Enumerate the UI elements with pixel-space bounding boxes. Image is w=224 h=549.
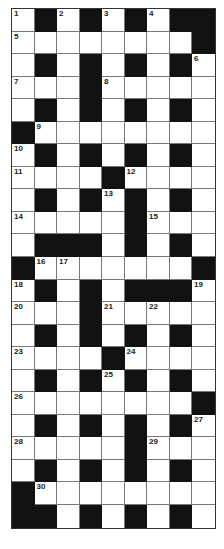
grid-cell[interactable] — [102, 54, 125, 77]
grid-cell[interactable] — [147, 392, 170, 415]
grid-cell[interactable]: 22 — [147, 302, 170, 325]
grid-cell[interactable] — [57, 392, 80, 415]
grid-cell[interactable] — [147, 77, 170, 100]
grid-cell[interactable]: 10 — [12, 144, 35, 167]
grid-cell[interactable] — [147, 32, 170, 55]
grid-cell[interactable]: 17 — [57, 257, 80, 280]
grid-cell[interactable] — [12, 370, 35, 393]
grid-cell[interactable]: 2 — [57, 9, 80, 32]
grid-cell[interactable] — [170, 167, 193, 190]
grid-cell[interactable] — [57, 505, 80, 528]
grid-cell[interactable] — [147, 144, 170, 167]
grid-cell[interactable] — [57, 302, 80, 325]
grid-cell[interactable] — [102, 482, 125, 505]
grid-cell[interactable]: 27 — [192, 415, 215, 438]
grid-cell[interactable] — [147, 167, 170, 190]
grid-cell[interactable] — [102, 234, 125, 257]
grid-cell[interactable] — [57, 347, 80, 370]
grid-cell[interactable]: 18 — [12, 280, 35, 303]
grid-cell[interactable] — [125, 122, 148, 145]
grid-cell[interactable] — [125, 302, 148, 325]
grid-cell[interactable]: 12 — [125, 167, 148, 190]
grid-cell[interactable] — [125, 32, 148, 55]
grid-cell[interactable] — [57, 144, 80, 167]
grid-cell[interactable] — [80, 212, 103, 235]
grid-cell[interactable] — [12, 234, 35, 257]
grid-cell[interactable]: 1 — [12, 9, 35, 32]
grid-cell[interactable] — [125, 482, 148, 505]
grid-cell[interactable] — [12, 415, 35, 438]
grid-cell[interactable] — [57, 167, 80, 190]
grid-cell[interactable] — [170, 302, 193, 325]
grid-cell[interactable] — [102, 212, 125, 235]
grid-cell[interactable]: 19 — [192, 280, 215, 303]
grid-cell[interactable]: 21 — [102, 302, 125, 325]
grid-cell[interactable] — [57, 482, 80, 505]
grid-cell[interactable] — [147, 482, 170, 505]
grid-cell[interactable]: 24 — [125, 347, 148, 370]
grid-cell[interactable] — [170, 482, 193, 505]
grid-cell[interactable] — [57, 280, 80, 303]
grid-cell[interactable]: 25 — [102, 370, 125, 393]
grid-cell[interactable] — [147, 234, 170, 257]
grid-cell[interactable] — [170, 437, 193, 460]
grid-cell[interactable] — [125, 257, 148, 280]
grid-cell[interactable] — [102, 99, 125, 122]
grid-cell[interactable] — [80, 122, 103, 145]
grid-cell[interactable] — [147, 347, 170, 370]
grid-cell[interactable]: 3 — [102, 9, 125, 32]
grid-cell[interactable] — [192, 212, 215, 235]
grid-cell[interactable] — [35, 302, 58, 325]
grid-cell[interactable] — [192, 302, 215, 325]
grid-cell[interactable] — [57, 212, 80, 235]
grid-cell[interactable] — [192, 167, 215, 190]
grid-cell[interactable] — [35, 167, 58, 190]
grid-cell[interactable] — [170, 257, 193, 280]
grid-cell[interactable] — [147, 325, 170, 348]
grid-cell[interactable] — [147, 257, 170, 280]
grid-cell[interactable] — [192, 234, 215, 257]
grid-cell[interactable] — [170, 122, 193, 145]
grid-cell[interactable] — [102, 415, 125, 438]
grid-cell[interactable] — [170, 32, 193, 55]
grid-cell[interactable] — [192, 505, 215, 528]
grid-cell[interactable] — [57, 370, 80, 393]
grid-cell[interactable] — [12, 99, 35, 122]
grid-cell[interactable] — [147, 122, 170, 145]
grid-cell[interactable] — [57, 325, 80, 348]
grid-cell[interactable] — [147, 370, 170, 393]
grid-cell[interactable] — [12, 189, 35, 212]
grid-cell[interactable] — [102, 437, 125, 460]
grid-cell[interactable] — [12, 54, 35, 77]
grid-cell[interactable] — [35, 212, 58, 235]
grid-cell[interactable]: 28 — [12, 437, 35, 460]
grid-cell[interactable] — [35, 347, 58, 370]
grid-cell[interactable] — [80, 437, 103, 460]
grid-cell[interactable] — [192, 99, 215, 122]
grid-cell[interactable] — [192, 325, 215, 348]
grid-cell[interactable] — [80, 32, 103, 55]
grid-cell[interactable] — [57, 189, 80, 212]
grid-cell[interactable] — [192, 370, 215, 393]
grid-cell[interactable] — [57, 32, 80, 55]
grid-cell[interactable] — [80, 392, 103, 415]
grid-cell[interactable] — [57, 122, 80, 145]
grid-cell[interactable] — [147, 505, 170, 528]
grid-cell[interactable] — [147, 54, 170, 77]
grid-cell[interactable] — [102, 460, 125, 483]
grid-cell[interactable] — [170, 77, 193, 100]
grid-cell[interactable]: 8 — [102, 77, 125, 100]
grid-cell[interactable] — [57, 460, 80, 483]
grid-cell[interactable] — [35, 437, 58, 460]
grid-cell[interactable] — [35, 32, 58, 55]
grid-cell[interactable] — [192, 77, 215, 100]
grid-cell[interactable] — [102, 257, 125, 280]
grid-cell[interactable]: 5 — [12, 32, 35, 55]
grid-cell[interactable] — [57, 77, 80, 100]
grid-cell[interactable]: 4 — [147, 9, 170, 32]
grid-cell[interactable]: 15 — [147, 212, 170, 235]
grid-cell[interactable] — [125, 392, 148, 415]
grid-cell[interactable]: 23 — [12, 347, 35, 370]
grid-cell[interactable] — [192, 437, 215, 460]
grid-cell[interactable]: 26 — [12, 392, 35, 415]
